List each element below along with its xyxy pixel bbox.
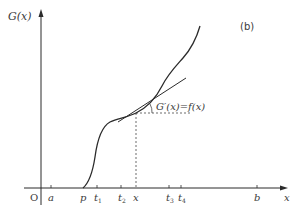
plot-canvas: G(x) (b) G′(x)=f(x) O a p t1 t2 x t3 t4 … xyxy=(0,0,299,217)
tick-label-t2: t2 xyxy=(118,192,126,204)
derivative-annotation: G′(x)=f(x) xyxy=(156,101,205,112)
tick-label-t4: t4 xyxy=(178,192,186,204)
y-axis-arrow-icon xyxy=(39,9,44,17)
tick-label-p: p xyxy=(80,192,87,203)
x-axis xyxy=(24,186,288,191)
x-axis-arrow-icon xyxy=(280,186,288,191)
tick-label-t3: t3 xyxy=(166,192,174,204)
origin-label: O xyxy=(30,192,38,203)
x-axis-label: x xyxy=(284,192,290,203)
y-axis xyxy=(39,9,44,205)
figure-b: G(x) (b) G′(x)=f(x) O a p t1 t2 x t3 t4 … xyxy=(0,0,299,217)
panel-label: (b) xyxy=(240,21,254,32)
tick-label-a: a xyxy=(48,192,54,203)
y-axis-label: G(x) xyxy=(8,10,32,23)
tick-label-b: b xyxy=(254,192,260,203)
angle-arc xyxy=(150,104,152,113)
tangent-line xyxy=(118,78,186,122)
tick-label-t1: t1 xyxy=(94,192,102,204)
tick-label-x: x xyxy=(133,192,139,203)
